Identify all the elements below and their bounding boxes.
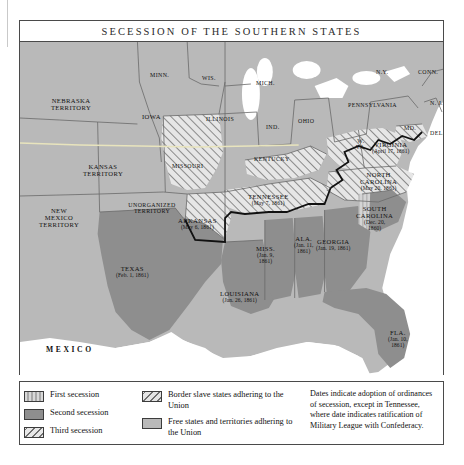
map-page: Secession of the Southern States <box>0 0 464 465</box>
swatch-third-secession-icon <box>24 427 44 438</box>
swatch-first-secession-icon <box>24 391 44 402</box>
scan-artifact <box>7 0 8 47</box>
swatch-second-secession-icon <box>24 409 44 420</box>
map-frame: Secession of the Southern States <box>19 20 444 375</box>
map-graphic <box>20 42 443 375</box>
swatch-border-slave-states-icon <box>142 391 162 402</box>
swatch-free-states-icon <box>142 418 162 429</box>
legend-item-border-slave-states: Border slave states adhering to the Unio… <box>142 390 302 412</box>
legend-item-third-secession: Third secession <box>24 426 142 438</box>
legend-item-free-states: Free states and territories adhering to … <box>142 417 302 439</box>
legend-column-union: Border slave states adhering to the Unio… <box>142 385 302 441</box>
legend-item-second-secession: Second secession <box>24 408 142 420</box>
legend-note: Dates indicate adoption of ordinances of… <box>310 389 437 431</box>
page-title: Secession of the Southern States <box>102 26 362 37</box>
map-canvas[interactable]: NEBRASKA TERRITORY IOWA MINN. WIS. MICH.… <box>20 42 443 375</box>
legend-column-note: Dates indicate adoption of ordinances of… <box>302 385 439 441</box>
legend-column-secession: First secession Second secession Third s… <box>24 385 142 441</box>
legend-item-first-secession: First secession <box>24 390 142 402</box>
map-title-bar: Secession of the Southern States <box>20 21 443 42</box>
map-legend: First secession Second secession Third s… <box>19 381 444 445</box>
